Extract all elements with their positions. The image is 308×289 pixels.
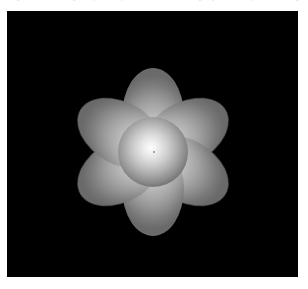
clipped-caption-strip: Figure rendering output — procedural flo…	[0, 0, 308, 10]
rendered-image-canvas	[7, 11, 298, 277]
core-highlight-speck	[153, 151, 155, 153]
page-root: Figure rendering output — procedural flo…	[0, 0, 308, 289]
clipped-caption-text: Figure rendering output — procedural flo…	[8, 0, 300, 2]
